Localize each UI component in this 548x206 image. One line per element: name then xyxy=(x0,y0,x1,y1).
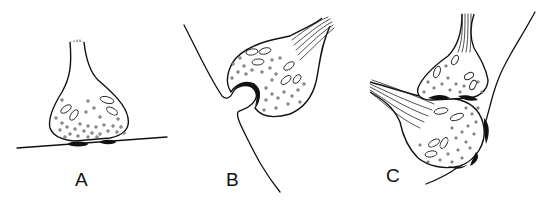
panel-b-bouton xyxy=(227,18,330,116)
synapse-diagram: A xyxy=(0,0,548,206)
panel-c-label: C xyxy=(386,165,400,186)
panel-b: B xyxy=(184,17,334,192)
panel-a: A xyxy=(17,40,167,190)
panel-c-upper-bouton xyxy=(418,14,488,100)
panel-a-synaptic-density xyxy=(68,142,88,147)
panel-b-label: B xyxy=(226,169,239,190)
panel-a-synaptic-density xyxy=(100,140,116,144)
panel-a-label: A xyxy=(75,169,88,190)
panel-b-synaptic-density xyxy=(234,83,260,106)
panel-c: C xyxy=(370,12,535,186)
